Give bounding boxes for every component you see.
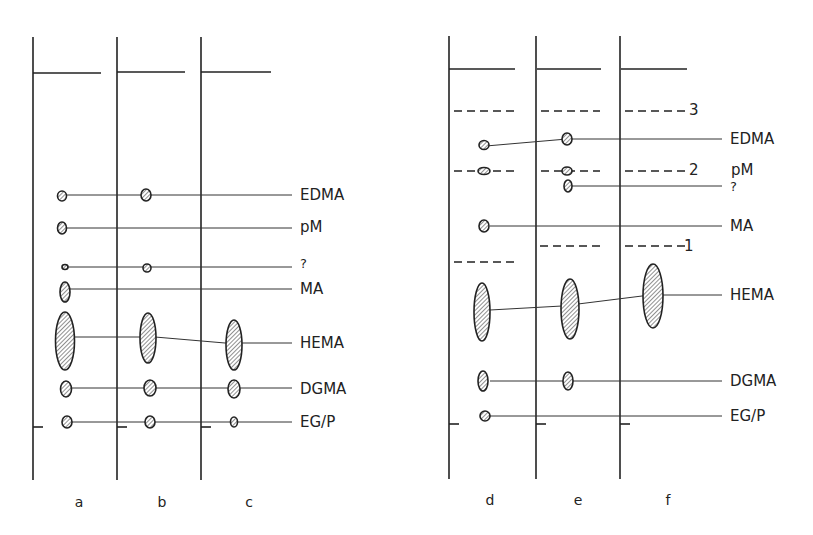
spot-a-dgma <box>61 381 72 397</box>
front-marker-1: 1 <box>684 239 694 254</box>
tlc-diagram <box>0 0 813 535</box>
label-right-unknown: ? <box>730 180 737 193</box>
spot-e-unknown <box>564 180 572 192</box>
spot-b-dgma <box>144 380 156 396</box>
spot-a-egp <box>62 416 72 428</box>
spot-c-hema <box>226 320 242 370</box>
lane-label-f: f <box>666 493 671 507</box>
label-right-ma: MA <box>730 219 753 234</box>
front-marker-2: 2 <box>689 163 699 178</box>
spot-e-hema <box>561 279 579 339</box>
lane-label-c: c <box>245 495 253 509</box>
spot-c-egp <box>231 417 238 427</box>
label-right-egp: EG/P <box>730 409 765 424</box>
spot-a-hema <box>56 312 75 370</box>
lane-label-b: b <box>158 495 167 509</box>
label-left-edma: EDMA <box>300 188 344 203</box>
spot-d-dgma <box>478 371 488 391</box>
spot-c-dgma <box>228 380 240 398</box>
spot-a-edma <box>58 191 67 201</box>
spot-b-unknown <box>143 264 151 272</box>
spot-d-edma <box>479 141 489 150</box>
spot-b-edma <box>141 189 151 201</box>
label-right-pm: pM <box>731 163 753 178</box>
label-left-dgma: DGMA <box>300 382 346 397</box>
label-right-dgma: DGMA <box>730 374 776 389</box>
label-right-hema: HEMA <box>730 288 774 303</box>
spot-d-egp <box>480 411 490 421</box>
spot-a-unknown <box>62 265 68 270</box>
spot-e-pm <box>562 167 572 175</box>
spot-d-ma <box>479 220 489 232</box>
label-left-unknown: ? <box>300 257 307 270</box>
label-left-pm: pM <box>300 220 322 235</box>
spot-e-edma <box>562 133 572 145</box>
label-left-egp: EG/P <box>300 415 335 430</box>
spot-a-pm <box>58 222 67 234</box>
spot-d-pm <box>478 168 490 175</box>
lane-label-e: e <box>574 493 583 507</box>
label-right-edma: EDMA <box>730 132 774 147</box>
spot-a-ma <box>60 282 70 302</box>
label-left-ma: MA <box>300 282 323 297</box>
spot-b-hema <box>140 313 156 363</box>
spot-d-hema <box>474 283 490 341</box>
spot-b-egp <box>145 416 155 428</box>
label-left-hema: HEMA <box>300 336 344 351</box>
spot-e-dgma <box>563 372 573 390</box>
spot-f-hema <box>643 264 663 328</box>
front-marker-3: 3 <box>689 103 699 118</box>
lane-label-d: d <box>486 493 495 507</box>
lane-label-a: a <box>75 495 84 509</box>
